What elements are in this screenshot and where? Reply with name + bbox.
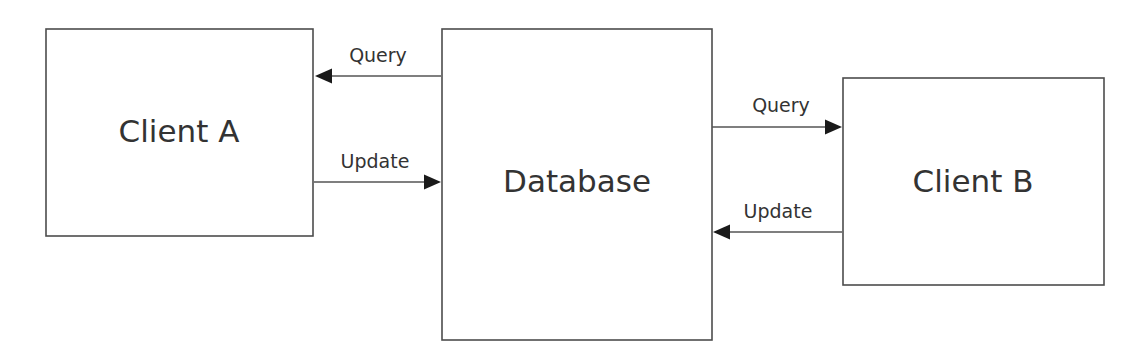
node-client-b[interactable]: Client B <box>843 78 1104 285</box>
diagram-canvas: Client A Database Client B Query Update … <box>0 0 1145 355</box>
arrowhead-right-icon <box>825 120 842 135</box>
edge-query-db-to-client-a[interactable]: Query <box>315 44 441 84</box>
edge-query-db-to-client-b[interactable]: Query <box>712 94 842 135</box>
node-label-database: Database <box>503 163 651 199</box>
edge-label-query-left: Query <box>349 44 407 66</box>
edge-label-update-left: Update <box>341 150 410 172</box>
node-client-a[interactable]: Client A <box>46 29 313 236</box>
arrowhead-left-icon <box>315 69 332 84</box>
edge-update-client-a-to-db[interactable]: Update <box>314 150 441 190</box>
node-database[interactable]: Database <box>442 29 712 340</box>
edge-update-client-b-to-db[interactable]: Update <box>713 200 842 240</box>
node-label-client-a: Client A <box>119 113 240 149</box>
arrowhead-right-icon <box>424 175 441 190</box>
diagram-svg: Client A Database Client B Query Update … <box>0 0 1145 355</box>
node-label-client-b: Client B <box>913 163 1034 199</box>
edge-label-query-right: Query <box>752 94 810 116</box>
arrowhead-left-icon <box>713 225 730 240</box>
edge-label-update-right: Update <box>744 200 813 222</box>
